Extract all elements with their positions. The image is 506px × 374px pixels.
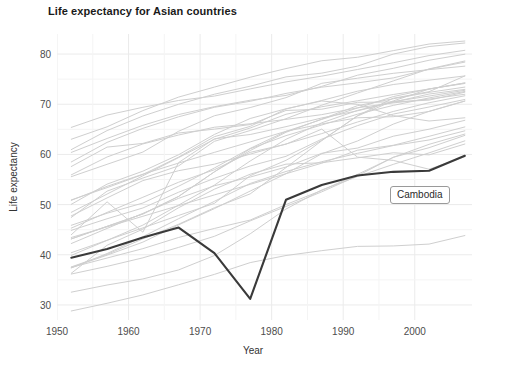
x-axis-tick-label: 2000 [404, 326, 426, 337]
y-axis-tick-label: 80 [40, 49, 51, 60]
y-axis-title: Life expectancy [8, 142, 19, 212]
y-axis-tick-label: 60 [40, 149, 51, 160]
y-axis-tick-label: 70 [40, 99, 51, 110]
x-axis-title: Year [0, 345, 506, 356]
plot-panel [57, 34, 472, 320]
series-line [71, 54, 465, 152]
gridlines [57, 34, 472, 320]
x-axis-tick-label: 1960 [117, 326, 139, 337]
y-axis-tick-label: 30 [40, 299, 51, 310]
x-axis-tick-label: 1950 [46, 326, 68, 337]
plot-svg [57, 34, 472, 320]
y-axis-tick-label: 50 [40, 199, 51, 210]
series-lines [71, 41, 465, 311]
x-axis-tick-label: 1990 [332, 326, 354, 337]
annotation-cambodia: Cambodia [390, 186, 450, 204]
x-axis-tick-label: 1980 [261, 326, 283, 337]
chart-title: Life expectancy for Asian countries [48, 5, 237, 17]
x-axis-tick-label: 1970 [189, 326, 211, 337]
series-line [71, 99, 465, 230]
y-axis-tick-label: 40 [40, 249, 51, 260]
series-line [71, 94, 465, 175]
chart-figure: Life expectancy for Asian countries 3040… [0, 0, 506, 374]
